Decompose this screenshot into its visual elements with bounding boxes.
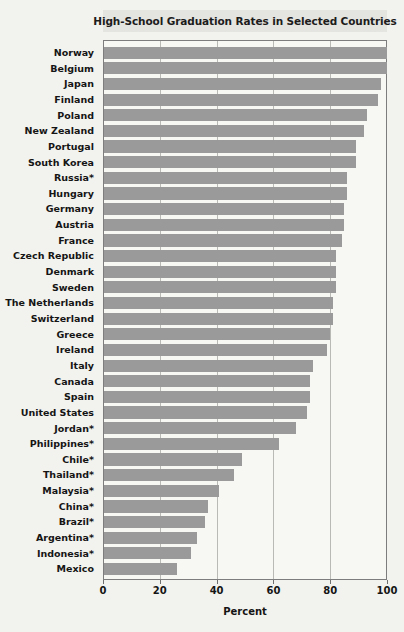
bar — [104, 62, 387, 74]
bar — [104, 344, 327, 356]
bar — [104, 297, 333, 309]
tick-label-100: 100 — [367, 585, 404, 596]
x-axis-title: Percent — [103, 606, 387, 617]
tick-label-0: 0 — [83, 585, 123, 596]
bar-rows: NorwayBelgiumJapanFinlandPolandNew Zeala… — [0, 40, 404, 580]
tick-label-60: 60 — [253, 585, 293, 596]
bar — [104, 516, 205, 528]
bar — [104, 500, 208, 512]
bar — [104, 313, 333, 325]
bar — [104, 125, 364, 137]
tick-mark-60 — [273, 580, 274, 584]
tick-mark-80 — [330, 580, 331, 584]
bar — [104, 234, 342, 246]
bar — [104, 469, 234, 481]
bar-chart: High-School Graduation Rates in Selected… — [0, 0, 404, 632]
bar — [104, 438, 279, 450]
bar — [104, 203, 344, 215]
bar — [104, 187, 347, 199]
chart-title-band: High-School Graduation Rates in Selected… — [103, 10, 387, 32]
tick-label-40: 40 — [197, 585, 237, 596]
bar — [104, 422, 296, 434]
bar — [104, 266, 336, 278]
bar — [104, 281, 336, 293]
bar — [104, 360, 313, 372]
bar — [104, 250, 336, 262]
bar — [104, 375, 310, 387]
bar — [104, 109, 367, 121]
bar — [104, 94, 378, 106]
bar — [104, 219, 344, 231]
bar — [104, 453, 242, 465]
tick-label-80: 80 — [310, 585, 350, 596]
bar — [104, 485, 219, 497]
tick-mark-20 — [160, 580, 161, 584]
bar — [104, 563, 177, 575]
category-label: Mexico — [0, 560, 94, 577]
tick-mark-40 — [217, 580, 218, 584]
tick-mark-0 — [103, 580, 104, 584]
bar — [104, 391, 310, 403]
bar — [104, 140, 356, 152]
tick-label-20: 20 — [140, 585, 180, 596]
bar — [104, 547, 191, 559]
bar — [104, 78, 381, 90]
x-axis-ticks: 020406080100 — [0, 580, 404, 586]
bar — [104, 172, 347, 184]
bar — [104, 47, 387, 59]
bar — [104, 406, 307, 418]
bar-row: Mexico — [0, 560, 404, 577]
bar — [104, 328, 330, 340]
chart-title: High-School Graduation Rates in Selected… — [93, 15, 397, 27]
tick-mark-100 — [387, 580, 388, 584]
bar — [104, 156, 356, 168]
bar — [104, 532, 197, 544]
